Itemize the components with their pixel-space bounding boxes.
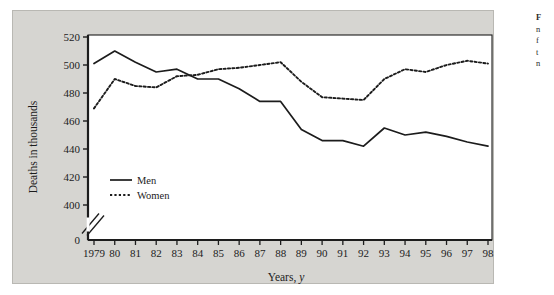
caption-line: t [536, 47, 554, 59]
x-tick-label: 92 [358, 247, 369, 259]
legend-label-women: Women [137, 190, 170, 201]
x-tick-label: 96 [441, 247, 453, 259]
caption-line: n [536, 58, 554, 70]
x-tick-label: 91 [337, 247, 348, 259]
x-tick-label: 90 [317, 247, 329, 259]
y-tick-label: 500 [64, 59, 81, 71]
x-tick-label: 94 [400, 247, 412, 259]
x-tick-label: 98 [483, 247, 495, 259]
y-tick-label: 480 [64, 87, 81, 99]
x-tick-label: 1979 [83, 247, 106, 259]
y-tick-label: 520 [64, 31, 81, 43]
x-tick-label: 83 [171, 247, 183, 259]
x-tick-label: 85 [213, 247, 225, 259]
y-tick-label: 420 [64, 171, 81, 183]
side-caption: Fnftn [505, 12, 554, 72]
figure-frame: 0400420440460480500520197980818283848586… [12, 10, 494, 284]
caption-line: F [536, 12, 554, 24]
caption-line: f [536, 35, 554, 47]
x-tick-label: 80 [109, 247, 121, 259]
x-tick-label: 87 [254, 247, 266, 259]
x-tick-label: 95 [420, 247, 432, 259]
y-tick-label: 440 [64, 143, 81, 155]
x-tick-label: 84 [192, 247, 204, 259]
legend-label-men: Men [137, 175, 157, 186]
y-tick-label: 460 [64, 115, 81, 127]
x-tick-label: 88 [275, 247, 287, 259]
y-axis-title: Deaths in thousands [27, 100, 39, 193]
x-axis-title: Years, y [268, 271, 305, 284]
y-tick-label: 0 [75, 234, 81, 246]
x-tick-label: 97 [462, 247, 474, 259]
axis-break-marks [82, 214, 104, 236]
x-tick-label: 86 [234, 247, 246, 259]
chart-axes-layer: 0400420440460480500520197980818283848586… [13, 11, 495, 285]
chart-legend: MenWomen [110, 175, 170, 201]
x-tick-label: 89 [296, 247, 308, 259]
x-axis-title-variable: y [298, 271, 305, 284]
x-tick-label: 93 [379, 247, 391, 259]
plot-frame [88, 35, 492, 240]
caption-line: n [536, 24, 554, 36]
x-tick-label: 82 [151, 247, 162, 259]
x-tick-label: 81 [130, 247, 141, 259]
y-tick-label: 400 [64, 199, 81, 211]
